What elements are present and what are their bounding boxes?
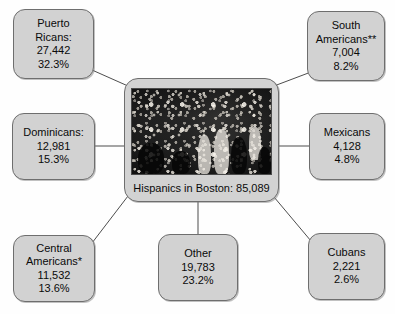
node-dominicans[interactable]: Dominicans: 12,981 15.3% xyxy=(12,113,95,180)
node-count: 19,783 xyxy=(181,261,215,275)
node-label-line2: Americans** xyxy=(316,33,377,47)
node-label-line1: Puerto xyxy=(37,17,69,31)
node-label-line2: Ricans: xyxy=(35,31,72,45)
photo-figure-light xyxy=(198,135,211,174)
node-count: 2,221 xyxy=(333,260,361,274)
node-percent: 13.6% xyxy=(38,282,69,296)
node-percent: 2.6% xyxy=(334,273,359,287)
crowd-photo xyxy=(131,88,272,175)
node-percent: 32.3% xyxy=(38,58,69,72)
node-count: 4,128 xyxy=(333,140,361,154)
hispanics-in-boston-diagram: Hispanics in Boston: 85,089 Puerto Rican… xyxy=(0,0,395,314)
photo-figure-light xyxy=(214,129,229,174)
node-label-line1: Mexicans xyxy=(324,126,370,140)
node-percent: 15.3% xyxy=(38,153,69,167)
node-count: 12,981 xyxy=(37,140,71,154)
node-central-americans[interactable]: Central Americans* 11,532 13.6% xyxy=(13,235,95,302)
connector-cubans xyxy=(274,197,311,241)
photo-figure-dark xyxy=(172,151,190,174)
connector-south-americans xyxy=(274,72,311,86)
connector-central-americans xyxy=(92,196,128,243)
node-label-line1: Central xyxy=(36,242,71,256)
center-hub-node: Hispanics in Boston: 85,089 xyxy=(124,78,279,202)
node-percent: 4.8% xyxy=(334,153,359,167)
node-label-line2: Americans* xyxy=(26,255,82,269)
node-count: 11,532 xyxy=(38,269,71,283)
node-percent: 8.2% xyxy=(333,60,358,74)
node-percent: 23.2% xyxy=(182,274,213,288)
photo-figure-dark xyxy=(231,137,247,174)
node-count: 7,004 xyxy=(332,46,360,60)
node-cubans[interactable]: Cubans 2,221 2.6% xyxy=(308,233,385,300)
node-mexicans[interactable]: Mexicans 4,128 4.8% xyxy=(309,113,385,180)
node-south-americans[interactable]: South Americans** 7,004 8.2% xyxy=(307,11,385,81)
node-label-line1: Cubans xyxy=(328,246,366,260)
photo-figure-dark xyxy=(258,147,271,174)
center-caption: Hispanics in Boston: 85,089 xyxy=(133,182,269,196)
node-label-line1: Dominicans: xyxy=(23,126,84,140)
node-label-line1: Other xyxy=(184,247,212,261)
photo-figure-dark xyxy=(138,143,164,174)
node-other[interactable]: Other 19,783 23.2% xyxy=(158,234,238,301)
connector-puerto-ricans xyxy=(92,70,128,86)
node-label-line1: South xyxy=(332,19,361,33)
node-count: 27,442 xyxy=(37,44,71,58)
node-puerto-ricans[interactable]: Puerto Ricans: 27,442 32.3% xyxy=(13,9,94,79)
